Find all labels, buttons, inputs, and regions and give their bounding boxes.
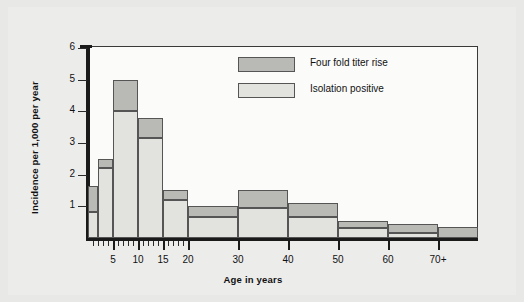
- bar-segment-isolation-positive-5-10: [113, 111, 138, 238]
- x-minor-tick: [183, 241, 184, 246]
- bar-segment-isolation-positive-30-40: [238, 208, 288, 238]
- y-tick-label: 3: [69, 136, 75, 147]
- legend-swatch-dark-icon: [238, 57, 295, 72]
- y-tick-mark: [78, 48, 87, 49]
- bar-segment-four-fold-titer-rise-20-30: [188, 206, 238, 217]
- x-major-tick-50: [338, 241, 340, 250]
- x-axis-title: Age in years: [88, 274, 418, 285]
- x-tick-label-20: 20: [168, 254, 208, 265]
- x-minor-tick: [108, 241, 109, 246]
- x-major-tick-20: [188, 241, 190, 250]
- x-minor-tick: [103, 241, 104, 246]
- y-tick-mark: [78, 175, 87, 176]
- bar-segment-four-fold-titer-rise-40-50: [288, 203, 338, 217]
- x-minor-tick: [128, 241, 129, 246]
- legend-label-four-fold-titer-rise: Four fold titer rise: [310, 57, 388, 68]
- x-minor-tick: [168, 241, 169, 246]
- x-minor-tick: [123, 241, 124, 246]
- legend-label-isolation-positive: Isolation positive: [310, 83, 384, 94]
- x-major-tick-40: [288, 241, 290, 250]
- x-major-tick-30: [238, 241, 240, 250]
- x-minor-tick: [143, 241, 144, 246]
- bar-segment-isolation-positive-60-70: [388, 233, 438, 238]
- bar-segment-isolation-positive-20-30: [188, 217, 238, 238]
- y-tick-label: 2: [69, 168, 75, 179]
- bar-segment-isolation-positive-10-15: [138, 138, 163, 238]
- bar-segment-four-fold-titer-rise-15-20: [163, 190, 188, 200]
- y-tick-label: 4: [69, 104, 75, 115]
- bar-segment-four-fold-titer-rise-30-40: [238, 190, 288, 208]
- chart-legend: Four fold titer rise Isolation positive: [238, 55, 438, 107]
- bar-segment-isolation-positive-40-50: [288, 217, 338, 238]
- bar-segment-four-fold-titer-rise-60-70: [388, 224, 438, 234]
- bar-segment-four-fold-titer-rise-5-10: [113, 80, 138, 112]
- bar-segment-isolation-positive-15-20: [163, 200, 188, 238]
- x-major-tick-70+: [438, 241, 440, 250]
- y-tick-mark: [78, 206, 87, 207]
- x-minor-tick: [118, 241, 119, 246]
- y-tick-4: 4: [40, 111, 87, 112]
- y-tick-label: 5: [69, 73, 75, 84]
- bar-segment-four-fold-titer-rise-2-5: [98, 159, 113, 169]
- y-tick-label: 1: [69, 199, 75, 210]
- x-minor-tick: [133, 241, 134, 246]
- x-major-tick-5: [113, 241, 115, 250]
- bar-segment-four-fold-titer-rise-50-60: [338, 221, 388, 229]
- legend-item-four-fold-titer-rise: Four fold titer rise: [238, 55, 438, 81]
- y-axis-title: Incidence per 1,000 per year: [29, 68, 40, 228]
- y-tick-mark: [78, 111, 87, 112]
- legend-item-isolation-positive: Isolation positive: [238, 81, 438, 107]
- y-tick-5: 5: [40, 80, 87, 81]
- y-tick-2: 2: [40, 175, 87, 176]
- bar-segment-four-fold-titer-rise-70+: [438, 227, 478, 238]
- y-tick-mark: [78, 80, 87, 81]
- x-minor-tick: [98, 241, 99, 246]
- x-minor-tick: [153, 241, 154, 246]
- y-tick-label: 6: [69, 41, 75, 52]
- y-tick-6: 6: [40, 48, 87, 49]
- x-tick-label-60: 60: [368, 254, 408, 265]
- x-tick-label-30: 30: [218, 254, 258, 265]
- x-minor-tick: [173, 241, 174, 246]
- x-tick-label-50: 50: [318, 254, 358, 265]
- bar-segment-four-fold-titer-rise-0-2: [88, 186, 98, 212]
- bar-segment-isolation-positive-50-60: [338, 228, 388, 238]
- x-minor-tick: [148, 241, 149, 246]
- legend-swatch-light-icon: [238, 83, 295, 98]
- x-major-tick-15: [163, 241, 165, 250]
- x-major-tick-10: [138, 241, 140, 250]
- bar-segment-four-fold-titer-rise-10-15: [138, 118, 163, 138]
- x-minor-tick: [93, 241, 94, 246]
- x-minor-tick: [158, 241, 159, 246]
- x-minor-tick: [178, 241, 179, 246]
- y-tick-mark: [78, 143, 87, 144]
- x-tick-label-40: 40: [268, 254, 308, 265]
- bar-segment-isolation-positive-0-2: [88, 212, 98, 238]
- bar-segment-isolation-positive-2-5: [98, 168, 113, 238]
- x-major-tick-60: [388, 241, 390, 250]
- x-tick-label-70+: 70+: [418, 254, 458, 265]
- y-tick-3: 3: [40, 143, 87, 144]
- y-tick-1: 1: [40, 206, 87, 207]
- chart-screenshot: 123456 51015203040506070+ Incidence per …: [0, 0, 524, 302]
